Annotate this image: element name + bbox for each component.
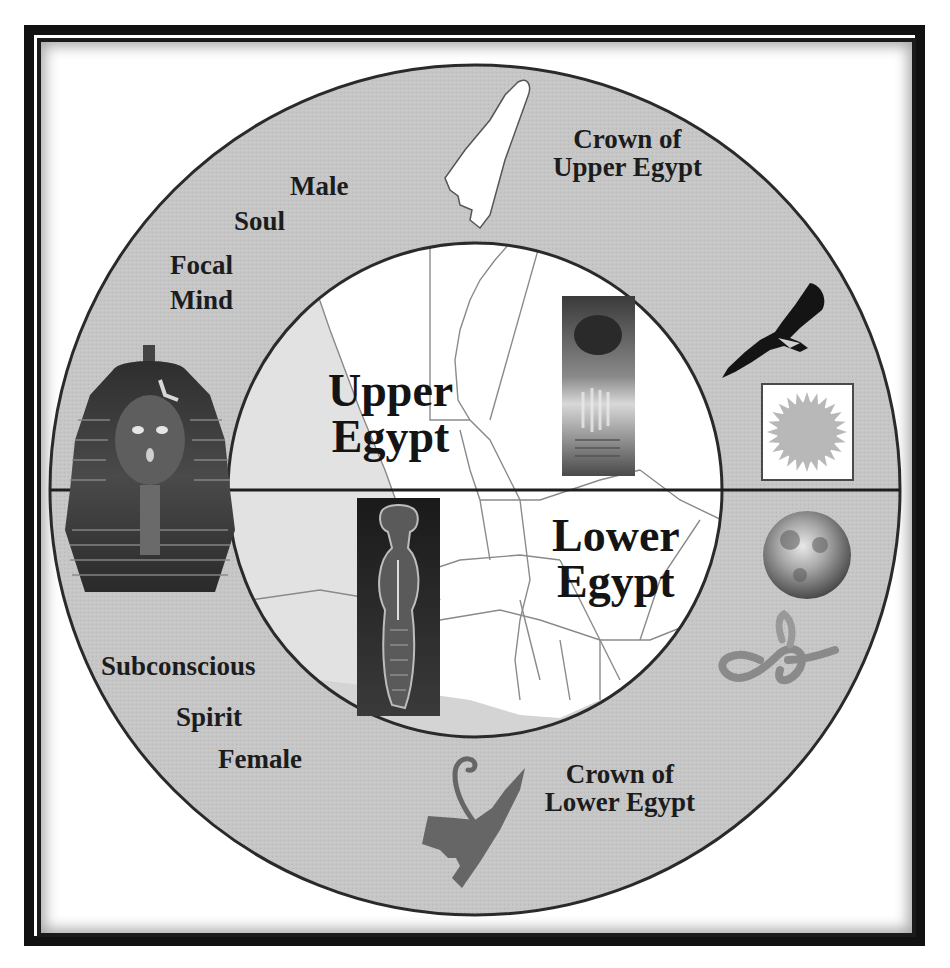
label-soul: Soul xyxy=(234,207,285,235)
lower-egypt-region-label: Lower Egypt xyxy=(552,513,680,605)
crown-upper-egypt-label: Crown of Upper Egypt xyxy=(535,125,720,182)
label-subconscious: Subconscious xyxy=(101,652,256,680)
sun-icon xyxy=(750,375,863,488)
crown-lower-egypt-label: Crown of Lower Egypt xyxy=(530,760,710,817)
crown-upper-line1: Crown of xyxy=(535,125,720,153)
label-focal: Focal xyxy=(170,251,233,279)
label-male: Male xyxy=(290,172,348,200)
label-spirit: Spirit xyxy=(176,703,242,731)
upper-region-line1: Upper xyxy=(328,368,453,414)
upper-region-line2: Egypt xyxy=(328,414,453,460)
lower-region-line1: Lower xyxy=(552,513,680,559)
crown-lower-line1: Crown of xyxy=(530,760,710,788)
label-female: Female xyxy=(218,745,302,773)
upper-coffin-image xyxy=(562,296,635,476)
lower-region-line2: Egypt xyxy=(552,559,680,605)
crown-lower-line2: Lower Egypt xyxy=(530,788,710,816)
moon-icon xyxy=(763,511,851,599)
egypt-diagram xyxy=(0,0,950,968)
crown-upper-line2: Upper Egypt xyxy=(535,153,720,181)
upper-egypt-region-label: Upper Egypt xyxy=(328,368,453,460)
label-mind: Mind xyxy=(170,286,233,314)
lower-coffin-image xyxy=(357,498,440,716)
